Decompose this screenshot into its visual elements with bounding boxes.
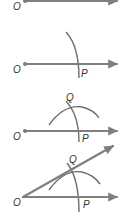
step-1: O [13,0,117,12]
step-2: O P [13,32,117,79]
angle-construction-diagram: O O P O P Q O P Q [0,0,126,218]
label-p: P [82,133,89,144]
label-q: Q [69,154,77,165]
label-o: O [13,1,21,12]
label-p: P [83,199,90,210]
vertex-dot [23,129,27,133]
vertex-dot [23,0,27,3]
label-o: O [13,64,21,75]
arc-from-p [49,107,99,125]
label-o: O [13,197,21,208]
step-3: O P Q [13,92,117,144]
label-o: O [13,131,21,142]
step-4: O P Q [13,146,117,212]
label-p: P [81,68,88,79]
ray-oq-icon [23,146,113,197]
arc-from-p [49,172,100,190]
arc-from-o [66,32,79,78]
label-q: Q [66,92,74,103]
vertex-dot [23,62,27,66]
